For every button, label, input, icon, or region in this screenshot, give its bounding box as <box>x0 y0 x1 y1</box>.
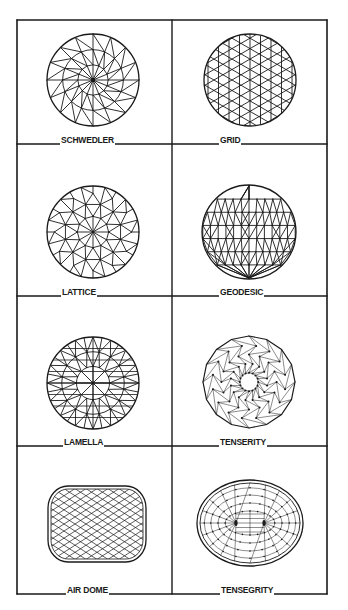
label-grid: GRID <box>219 136 241 145</box>
tenserity-dome <box>203 336 295 428</box>
lamella-dome <box>47 337 139 429</box>
label-schwedler: SCHWEDLER <box>60 136 115 145</box>
label-lattice: LATTICE <box>61 288 97 297</box>
dome-drawings <box>0 0 303 569</box>
lattice-dome <box>47 186 139 278</box>
label-tensegrity: TENSEGRITY <box>220 586 274 595</box>
label-air-dome: AIR DOME <box>66 586 109 595</box>
dome-types-diagram <box>0 0 348 610</box>
label-lamella: LAMELLA <box>63 438 104 447</box>
air-dome <box>0 479 255 569</box>
panel-frame <box>17 20 327 594</box>
grid-dome <box>198 0 303 232</box>
tensegrity-dome <box>197 480 303 566</box>
label-geodesic: GEODESIC <box>219 288 264 297</box>
schwedler-dome <box>47 34 139 126</box>
geodesic-dome <box>202 185 296 279</box>
label-tenserity: TENSERITY <box>219 438 267 447</box>
